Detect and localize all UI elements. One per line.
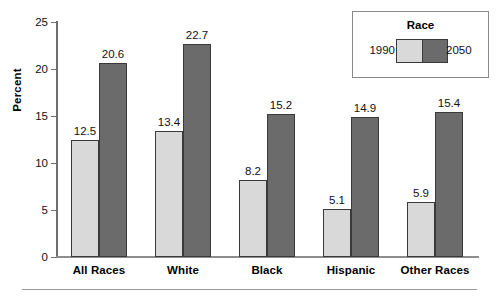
bar-value-label: 15.2	[261, 99, 301, 112]
legend-swatches	[396, 39, 448, 63]
bar-1990-white[interactable]	[155, 131, 183, 257]
legend-swatch-1990	[397, 40, 423, 62]
y-axis-tick-mark	[51, 210, 57, 211]
bar-value-label: 15.4	[429, 97, 469, 110]
bar-value-label: 22.7	[177, 29, 217, 42]
bar-value-label: 14.9	[345, 102, 385, 115]
legend-swatch-2050	[423, 40, 448, 62]
y-axis-label: Percent	[11, 50, 23, 130]
bar-2050-black[interactable]	[267, 114, 295, 257]
legend-title: Race	[353, 19, 488, 31]
y-axis-tick-label: 10	[35, 155, 48, 171]
bar-1990-hispanic[interactable]	[323, 209, 351, 257]
bar-2050-white[interactable]	[183, 44, 211, 257]
bar-1990-other-races[interactable]	[407, 202, 435, 257]
y-axis-tick-label: 5	[42, 202, 48, 218]
y-axis-tick-mark	[51, 22, 57, 23]
legend: Race 1990 2050	[352, 11, 489, 78]
bar-1990-black[interactable]	[239, 180, 267, 257]
legend-label-1990: 1990	[357, 44, 395, 56]
y-axis-tick-mark	[51, 257, 57, 258]
chart-figure: Percent 051015202512.520.613.422.78.215.…	[0, 0, 498, 298]
y-axis-tick-mark	[51, 69, 57, 70]
y-axis-tick-label: 0	[42, 249, 48, 265]
bar-2050-hispanic[interactable]	[351, 117, 379, 257]
y-axis-tick-label: 25	[35, 14, 48, 30]
bar-2050-other-races[interactable]	[435, 112, 463, 257]
bar-value-label: 20.6	[93, 48, 133, 61]
y-axis-tick-label: 15	[35, 108, 48, 124]
y-axis-tick-mark	[51, 163, 57, 164]
x-axis-label-other-races: Other Races	[375, 264, 495, 276]
legend-label-2050: 2050	[446, 44, 484, 56]
y-axis-tick-label: 20	[35, 61, 48, 77]
y-axis-tick-mark	[51, 116, 57, 117]
footer-divider	[22, 289, 477, 290]
bar-1990-all-races[interactable]	[71, 140, 99, 258]
bar-2050-all-races[interactable]	[99, 63, 127, 257]
